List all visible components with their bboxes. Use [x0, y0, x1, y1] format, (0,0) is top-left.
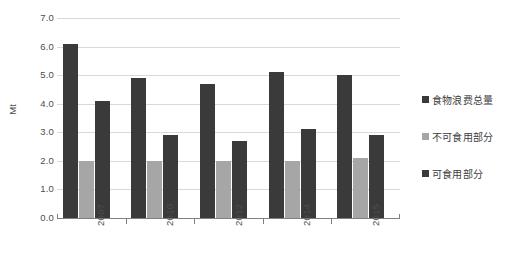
- y-axis-tick-label: 0.0: [24, 212, 54, 223]
- y-axis-tick-label: 1.0: [24, 183, 54, 194]
- legend-label: 食物浪费总量: [432, 92, 493, 107]
- bar-2015-total: [337, 75, 352, 218]
- x-axis-label-2014: 2014: [301, 182, 312, 226]
- x-axis-left-cap: [57, 214, 58, 219]
- bar-2012-total: [200, 84, 215, 218]
- x-axis-label-2015: 2015: [370, 182, 381, 226]
- bar-2015-inedible: [353, 158, 368, 218]
- y-axis-tick-label: 5.0: [24, 69, 54, 80]
- chart-legend: 食物浪费总量不可食用部分可食用部分: [422, 92, 512, 203]
- bar-chart: Mt 0.01.02.03.04.05.06.07.0 200720102012…: [0, 0, 513, 270]
- legend-item-0[interactable]: 食物浪费总量: [422, 92, 512, 106]
- x-axis-label-2012: 2012: [233, 182, 244, 226]
- bar-2010-total: [131, 78, 146, 218]
- y-axis-tick-label: 6.0: [24, 41, 54, 52]
- bar-2012-inedible: [216, 161, 231, 218]
- x-axis-line: [57, 218, 400, 219]
- legend-label: 可食用部分: [432, 166, 483, 181]
- x-axis-tick: [194, 219, 195, 224]
- x-axis-right-cap: [399, 214, 400, 219]
- y-axis-tick-labels: 0.01.02.03.04.05.06.07.0: [12, 0, 54, 270]
- x-axis-tick: [126, 219, 127, 224]
- bar-2014-total: [269, 72, 284, 218]
- legend-swatch-icon: [422, 96, 429, 103]
- bar-2007-total: [63, 44, 78, 218]
- legend-item-1[interactable]: 不可食用部分: [422, 129, 512, 143]
- x-axis-tick: [263, 219, 264, 224]
- legend-item-2[interactable]: 可食用部分: [422, 166, 512, 180]
- y-axis-tick-label: 7.0: [24, 12, 54, 23]
- legend-swatch-icon: [422, 170, 429, 177]
- bar-2014-inedible: [285, 161, 300, 218]
- plot-area: [57, 18, 400, 218]
- y-axis-tick-label: 2.0: [24, 155, 54, 166]
- x-axis-tick: [331, 219, 332, 224]
- y-axis-tick-label: 3.0: [24, 126, 54, 137]
- legend-label: 不可食用部分: [432, 129, 493, 144]
- x-axis-label-2007: 2007: [95, 182, 106, 226]
- y-axis-tick-label: 4.0: [24, 98, 54, 109]
- bar-2007-inedible: [79, 161, 94, 218]
- x-axis-label-2010: 2010: [164, 182, 175, 226]
- bar-2010-inedible: [147, 161, 162, 218]
- legend-swatch-icon: [422, 133, 429, 140]
